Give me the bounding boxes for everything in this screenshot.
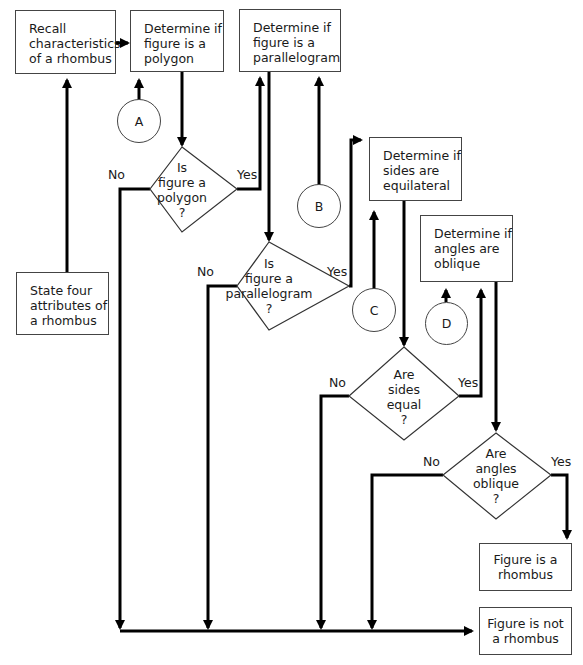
box-determine-oblique: Determine if angles are oblique — [420, 215, 513, 282]
label-no-sides: No — [329, 375, 346, 390]
box-determine-parallelogram: Determine if figure is a parallelogram — [239, 9, 341, 72]
decision-parallelogram-text: Is figure a parallelogram ? — [219, 256, 319, 316]
box-determine-polygon: Determine if figure is a polygon — [130, 10, 224, 72]
connector-b: B — [297, 184, 341, 228]
decision-sides-text: Are sides equal ? — [374, 367, 434, 427]
box-text: Determine if angles are oblique — [421, 216, 512, 271]
label-no-parallelogram: No — [197, 264, 214, 279]
box-text: State four attributes of a rhombus — [17, 273, 108, 328]
box-figure-is-rhombus: Figure is a rhombus — [479, 543, 572, 591]
box-text: Recall characteristics of a rhombus — [16, 11, 115, 66]
box-text: Figure is not a rhombus — [487, 616, 564, 646]
connector-c: C — [352, 288, 396, 332]
label-no-angles: No — [423, 454, 440, 469]
box-recall-characteristics: Recall characteristics of a rhombus — [15, 10, 116, 74]
label-yes-angles: Yes — [551, 454, 571, 469]
decision-angles-text: Are angles oblique ? — [466, 446, 526, 506]
box-determine-equilateral: Determine if sides are equilateral — [369, 137, 462, 201]
box-state-attributes: State four attributes of a rhombus — [16, 272, 109, 335]
box-text: Figure is a rhombus — [494, 552, 558, 582]
label-yes-parallelogram: Yes — [327, 264, 347, 279]
connector-a: A — [117, 99, 161, 143]
box-text: Determine if figure is a polygon — [131, 11, 223, 66]
decision-polygon-text: Is figure a polygon ? — [152, 160, 212, 220]
label-yes-sides: Yes — [458, 375, 478, 390]
label-no-polygon: No — [108, 167, 125, 182]
connector-d: D — [425, 302, 468, 345]
box-text: Determine if figure is a parallelogram — [240, 10, 340, 65]
box-figure-not-rhombus: Figure is not a rhombus — [479, 607, 572, 655]
box-text: Determine if sides are equilateral — [370, 138, 461, 193]
label-yes-polygon: Yes — [237, 167, 257, 182]
